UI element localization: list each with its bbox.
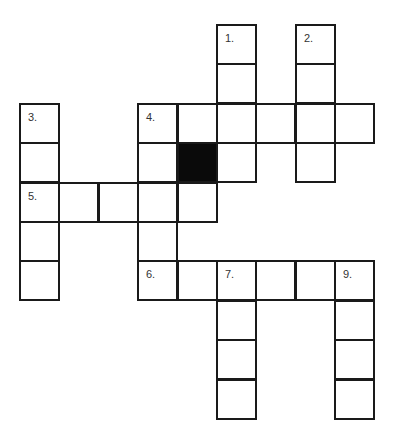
- crossword-cell[interactable]: [19, 142, 60, 183]
- crossword-grid: 1.2.3.4.5.6.7.9.: [0, 0, 394, 444]
- crossword-cell[interactable]: [177, 182, 218, 223]
- crossword-cell[interactable]: [255, 260, 296, 301]
- black-cell: [177, 142, 218, 183]
- crossword-cell[interactable]: [334, 300, 375, 341]
- crossword-cell[interactable]: [137, 221, 178, 262]
- crossword-cell[interactable]: [216, 379, 257, 420]
- crossword-cell[interactable]: [216, 339, 257, 380]
- crossword-cell[interactable]: [295, 142, 336, 183]
- crossword-cell[interactable]: 5.: [19, 182, 60, 223]
- crossword-cell[interactable]: [19, 221, 60, 262]
- crossword-cell[interactable]: [216, 142, 257, 183]
- clue-number: 2.: [304, 33, 313, 44]
- clue-number: 7.: [225, 269, 234, 280]
- crossword-cell[interactable]: [177, 103, 218, 144]
- crossword-cell[interactable]: [137, 142, 178, 183]
- clue-number: 6.: [146, 269, 155, 280]
- crossword-cell[interactable]: [137, 182, 178, 223]
- crossword-cell[interactable]: [19, 260, 60, 301]
- crossword-cell[interactable]: [216, 63, 257, 104]
- crossword-cell[interactable]: [295, 63, 336, 104]
- crossword-cell[interactable]: [98, 182, 139, 223]
- crossword-cell[interactable]: [177, 260, 218, 301]
- crossword-cell[interactable]: [216, 103, 257, 144]
- crossword-cell[interactable]: 2.: [295, 24, 336, 65]
- crossword-cell[interactable]: [334, 379, 375, 420]
- crossword-cell[interactable]: 9.: [334, 260, 375, 301]
- crossword-cell[interactable]: [216, 300, 257, 341]
- crossword-cell[interactable]: [58, 182, 99, 223]
- clue-number: 9.: [343, 269, 352, 280]
- crossword-cell[interactable]: 1.: [216, 24, 257, 65]
- crossword-cell[interactable]: [334, 103, 375, 144]
- clue-number: 1.: [225, 33, 234, 44]
- crossword-cell[interactable]: [295, 260, 336, 301]
- crossword-cell[interactable]: 7.: [216, 260, 257, 301]
- clue-number: 4.: [146, 112, 155, 123]
- crossword-cell[interactable]: [295, 103, 336, 144]
- crossword-cell[interactable]: 4.: [137, 103, 178, 144]
- crossword-cell[interactable]: [255, 103, 296, 144]
- crossword-cell[interactable]: 3.: [19, 103, 60, 144]
- crossword-cell[interactable]: 6.: [137, 260, 178, 301]
- crossword-cell[interactable]: [334, 339, 375, 380]
- clue-number: 3.: [28, 112, 37, 123]
- clue-number: 5.: [28, 191, 37, 202]
